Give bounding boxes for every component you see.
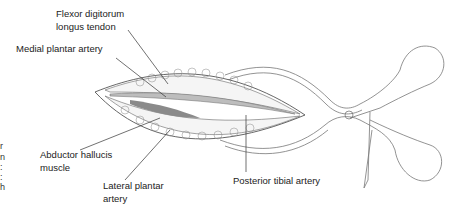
- incision-wound: [95, 68, 305, 140]
- posterior-label: Posterior tibial artery: [233, 175, 320, 187]
- left-fragment-5: h: [0, 181, 5, 193]
- medial-label: Medial plantar artery: [16, 43, 103, 55]
- abductor-label-line1: Abductor hallucis: [40, 149, 112, 161]
- lateral-label-line1: Lateral plantar: [103, 180, 164, 192]
- abductor-label-line2: muscle: [40, 162, 70, 174]
- flexor-label-line1: Flexor digitorum: [56, 8, 124, 20]
- flexor-label-line2: longus tendon: [56, 21, 116, 33]
- lateral-label-line2: artery: [103, 193, 127, 205]
